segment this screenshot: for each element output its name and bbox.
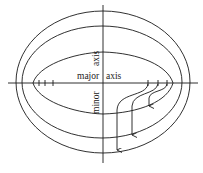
diagram-canvas: major axis axis minor <box>0 0 203 173</box>
label-major-axis: axis <box>106 71 122 81</box>
label-minor: minor <box>91 90 101 114</box>
arrow-3 <box>117 84 148 150</box>
arrow-1 <box>149 84 167 106</box>
label-major: major <box>77 71 100 81</box>
label-minor-axis: axis <box>91 50 101 66</box>
ellipse-axes-diagram: major axis axis minor <box>0 0 203 173</box>
